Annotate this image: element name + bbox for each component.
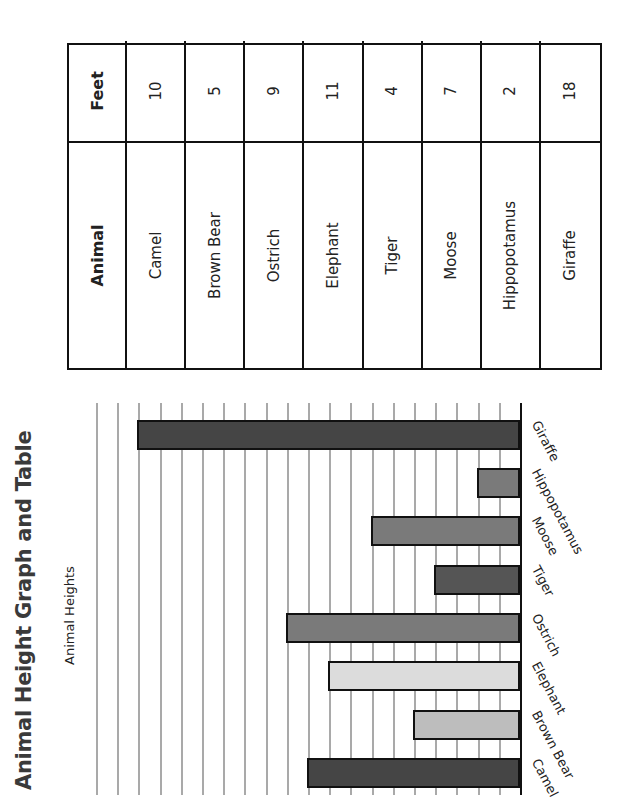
table-header-animal: Animal xyxy=(69,141,127,368)
bar-moose xyxy=(371,517,520,547)
bar-hippopotamus xyxy=(477,468,520,498)
page-title: Animal Height Graph and Table xyxy=(12,431,36,790)
animal-height-table: Animal Feet Camel10Brown Bear5Ostrich9El… xyxy=(67,43,602,370)
table-cell-feet: 2 xyxy=(482,41,541,141)
gridline xyxy=(223,403,225,795)
gridline xyxy=(350,403,352,795)
table-cell-animal: Camel xyxy=(127,141,186,368)
table-cell-animal: Hippopotamus xyxy=(482,141,541,368)
bar-giraffe xyxy=(137,420,520,450)
bar-brown-bear xyxy=(413,710,520,740)
bar-elephant xyxy=(328,661,520,691)
table-header-feet: Feet xyxy=(69,41,127,141)
table-cell-feet: 9 xyxy=(245,41,304,141)
gridline xyxy=(244,403,246,795)
bar-ostrich xyxy=(286,613,520,643)
gridline xyxy=(393,403,395,795)
bar-tiger xyxy=(434,565,520,595)
table-cell-feet: 5 xyxy=(186,41,245,141)
gridline xyxy=(329,403,331,795)
table-cell-feet: 18 xyxy=(541,41,600,141)
category-label: Elephant xyxy=(529,659,569,717)
category-label: Ostrich xyxy=(529,611,564,659)
table-cell-animal: Giraffe xyxy=(541,141,600,368)
gridline xyxy=(160,403,162,795)
table-cell-feet: 10 xyxy=(127,41,186,141)
bar-camel xyxy=(307,758,520,788)
table-cell-animal: Moose xyxy=(423,141,482,368)
gridline xyxy=(138,403,140,795)
table-cell-animal: Tiger xyxy=(364,141,423,368)
chart-title: Animal Heights xyxy=(62,566,77,665)
gridline xyxy=(181,403,183,795)
x-axis-line xyxy=(520,403,522,795)
gridline xyxy=(287,403,289,795)
gridline xyxy=(372,403,374,795)
category-label: Giraffe xyxy=(529,418,563,464)
gridline xyxy=(266,403,268,795)
table-cell-animal: Elephant xyxy=(304,141,363,368)
gridline xyxy=(96,403,98,795)
gridline xyxy=(308,403,310,795)
gridline xyxy=(117,403,119,795)
category-label: Tiger xyxy=(529,563,558,599)
gridline xyxy=(202,403,204,795)
table-cell-feet: 4 xyxy=(364,41,423,141)
bar-chart: CamelBrown BearElephantOstrichTigerMoose… xyxy=(97,395,521,795)
table-cell-feet: 7 xyxy=(423,41,482,141)
table-cell-animal: Brown Bear xyxy=(186,141,245,368)
table-cell-feet: 11 xyxy=(304,41,363,141)
table-cell-animal: Ostrich xyxy=(245,141,304,368)
